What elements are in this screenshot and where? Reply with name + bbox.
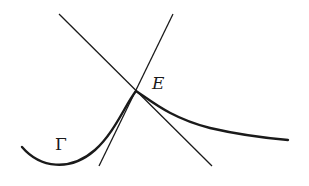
diagram-canvas: E Γ [0, 0, 309, 186]
diagram-svg [0, 0, 309, 186]
point-label-e: E [152, 75, 164, 92]
curve-label-gamma: Γ [55, 136, 67, 153]
